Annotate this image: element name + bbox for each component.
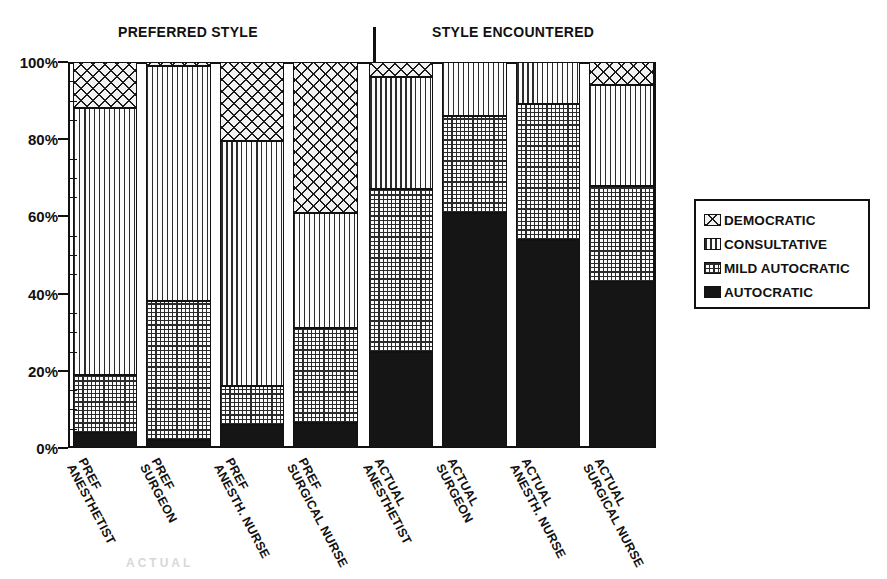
y-tick-minor: [68, 274, 77, 275]
x-tick-label: ACTUALANESTH. NURSE: [507, 456, 579, 561]
legend-label: CONSULTATIVE: [724, 237, 827, 252]
x-tick-label: PREFANESTH. NURSE: [211, 456, 283, 561]
x-tick-label: PREFANESTHETIST: [64, 456, 129, 547]
x-tick-label: ACTUALANESTHETIST: [360, 456, 425, 547]
y-tick-minor: [68, 255, 77, 256]
x-tick-label: PREFSURGEON: [137, 456, 190, 525]
y-tick-minor: [68, 81, 77, 82]
y-tick-minor: [68, 120, 77, 121]
legend-item: DEMOCRATIC: [704, 208, 862, 232]
scan-artifact-text: ACTUAL: [126, 556, 193, 570]
y-tick-minor: [68, 409, 77, 410]
legend-swatch-grid: [704, 262, 721, 274]
y-tick-minor: [68, 332, 77, 333]
legend-label: MILD AUTOCRATIC: [724, 261, 850, 276]
legend-item: CONSULTATIVE: [704, 232, 862, 256]
x-tick-label: PREFSURGICAL NURSE: [284, 456, 361, 570]
y-tick-minor: [68, 159, 77, 160]
legend-swatch-vertical-lines: [704, 238, 721, 250]
x-tick-label: ACTUALSURGEON: [433, 456, 486, 525]
y-tick-minor: [68, 313, 77, 314]
y-tick-minor: [68, 197, 77, 198]
y-tick-minor: [68, 429, 77, 430]
legend-item: MILD AUTOCRATIC: [704, 256, 862, 280]
legend-label: DEMOCRATIC: [724, 213, 816, 228]
legend-label: AUTOCRATIC: [724, 285, 813, 300]
legend-swatch-cross-hatch: [704, 214, 721, 226]
x-tick-label: ACTUALSURGICAL NURSE: [580, 456, 657, 570]
y-tick-minor: [68, 101, 77, 102]
legend-swatch-solid-black: [704, 286, 721, 298]
y-tick-minor: [68, 390, 77, 391]
y-tick-minor: [68, 178, 77, 179]
y-tick-minor: [68, 352, 77, 353]
y-tick-minor: [68, 236, 77, 237]
legend: DEMOCRATICCONSULTATIVEMILD AUTOCRATICAUT…: [694, 199, 870, 309]
legend-item: AUTOCRATIC: [704, 280, 862, 304]
